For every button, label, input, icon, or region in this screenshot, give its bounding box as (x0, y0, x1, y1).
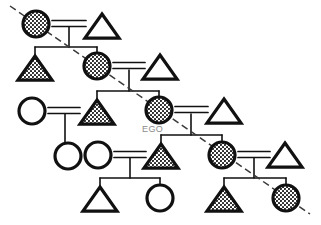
triangle-icon (83, 187, 117, 211)
symbol-g4-husband[interactable] (268, 143, 302, 167)
symbol-g3-wife[interactable] (19, 98, 45, 124)
triangle-icon (143, 55, 177, 79)
symbol-g2-husband[interactable] (143, 55, 177, 79)
ego-label: EGO (142, 124, 163, 134)
circle-icon (85, 142, 111, 168)
shaded-triangle-icon (144, 144, 178, 168)
shaded-circle-icon (23, 11, 49, 37)
symbol-g3-husband[interactable] (207, 99, 241, 123)
symbol-g5-granddau[interactable] (147, 185, 173, 211)
triangle-icon (207, 99, 241, 123)
shaded-triangle-icon (80, 100, 114, 124)
symbol-g2-daughter[interactable] (84, 53, 110, 79)
symbol-g3-ego[interactable] (146, 97, 172, 123)
symbol-g4-son[interactable] (144, 144, 178, 168)
marriage-link (114, 152, 146, 158)
symbol-g3-brother[interactable] (80, 100, 114, 124)
symbol-g2-son[interactable] (18, 56, 52, 80)
symbol-g1-mother[interactable] (23, 11, 49, 37)
symbol-g4-niece[interactable] (55, 143, 81, 169)
triangle-icon (85, 14, 119, 38)
marriage-link (175, 107, 208, 113)
kinship-diagram: EGO (0, 0, 321, 225)
shaded-circle-icon (273, 185, 299, 211)
symbol-g5-gdau2[interactable] (273, 185, 299, 211)
shaded-circle-icon (209, 142, 235, 168)
marriage-link (48, 108, 80, 114)
shaded-circle-icon (146, 97, 172, 123)
symbol-g4-daughter[interactable] (209, 142, 235, 168)
marriage-link (52, 21, 86, 27)
circle-icon (55, 143, 81, 169)
symbol-g4-wife[interactable] (85, 142, 111, 168)
shaded-circle-icon (84, 53, 110, 79)
symbol-g1-father[interactable] (85, 14, 119, 38)
triangle-icon (268, 143, 302, 167)
marriage-link (238, 152, 270, 158)
marriage-link (113, 63, 145, 69)
shaded-triangle-icon (207, 187, 241, 211)
symbol-g5-gson2[interactable] (207, 187, 241, 211)
circle-icon (147, 185, 173, 211)
symbol-g5-grandson[interactable] (83, 187, 117, 211)
circle-icon (19, 98, 45, 124)
kinship-canvas (0, 0, 321, 225)
shaded-triangle-icon (18, 56, 52, 80)
